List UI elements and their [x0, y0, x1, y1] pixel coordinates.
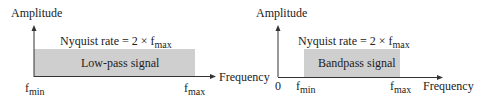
nyquist-sub: max [393, 39, 410, 50]
bandpass-fmin-tick: fmin [296, 80, 316, 96]
tick-sub: max [394, 84, 411, 95]
tick-sub: min [300, 84, 316, 95]
low-pass-x-arrow-icon [210, 74, 216, 79]
low-pass-fmax-tick: fmax [184, 82, 205, 98]
bandpass-y-arrow-icon [276, 25, 281, 31]
nyquist-sub: max [155, 39, 172, 50]
bandpass-origin-label: 0 [275, 80, 281, 92]
bandpass-band-label: Bandpass signal [318, 57, 396, 69]
bandpass-nyquist-label: Nyquist rate = 2 × fmax [298, 35, 410, 51]
low-pass-band-label: Low-pass signal [81, 57, 159, 69]
bandpass-y-axis-label: Amplitude [256, 7, 307, 19]
bandpass-fmax-tick: fmax [390, 80, 411, 96]
low-pass-x-axis-label: Frequency [219, 71, 270, 83]
bandpass-x-axis-label: Frequency [423, 80, 474, 92]
low-pass-fmin-tick: fmin [25, 82, 45, 98]
low-pass-y-arrow-icon [32, 25, 37, 31]
low-pass-nyquist-label: Nyquist rate = 2 × fmax [60, 35, 172, 51]
tick-sub: max [188, 86, 205, 97]
low-pass-y-axis-label: Amplitude [11, 7, 62, 19]
tick-sub: min [29, 86, 45, 97]
nyquist-prefix: Nyquist rate = 2 × [298, 34, 389, 48]
nyquist-prefix: Nyquist rate = 2 × [60, 34, 151, 48]
